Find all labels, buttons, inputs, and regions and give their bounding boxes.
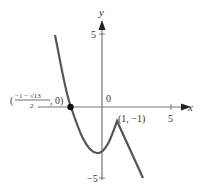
y-axis-arrow-icon — [99, 20, 106, 30]
origin-label: 0 — [106, 93, 111, 104]
cusp-point-label: (1, −1) — [118, 113, 145, 125]
root-numerator: −1 − √13 — [15, 92, 41, 100]
y-tick-label-neg5: −5 — [87, 173, 98, 184]
root-point-dot — [67, 104, 73, 110]
function-graph: y x 0 5 5 −5 ( −1 − √13 2 , 0) (1, −1) — [0, 0, 201, 190]
root-open-paren: ( — [10, 95, 14, 107]
x-axis-label: x — [187, 101, 193, 113]
x-tick-label-5: 5 — [168, 113, 173, 124]
root-rest: , 0) — [50, 95, 63, 107]
y-axis-label: y — [98, 6, 104, 18]
y-tick-label-5: 5 — [91, 29, 96, 40]
root-denominator: 2 — [30, 102, 34, 110]
